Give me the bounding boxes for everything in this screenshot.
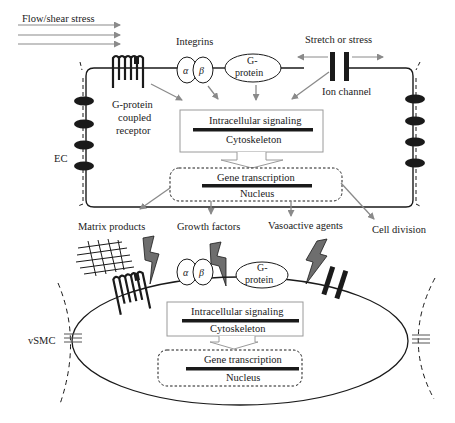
vasoactive-agents-label: Vasoactive agents: [268, 220, 343, 231]
cell-division-label: Cell division: [372, 224, 427, 235]
vsmc-cytoskeleton-label: Cytoskeleton: [210, 323, 266, 334]
vsmc-g-protein-label-1: G-: [257, 262, 268, 273]
g-protein-label-1: G-: [247, 55, 258, 66]
vsmc-signaling-label: Intracellular signaling: [191, 306, 284, 317]
ec-nucleus-box: Gene transcription Nucleus: [170, 168, 342, 201]
vsmc-nucleus-label: Nucleus: [226, 372, 260, 383]
mechanotransduction-diagram: Flow/shear stress EC G-protein coupled r…: [0, 0, 455, 423]
gpcr-receptor-icon: [113, 56, 143, 88]
bar: [193, 128, 313, 132]
vsmc-nucleus-box: Gene transcription Nucleus: [158, 350, 302, 386]
gpcr-label-3: receptor: [116, 125, 151, 136]
bar: [186, 367, 299, 371]
signal-bolt-icon: [210, 242, 226, 286]
arrow: [140, 188, 170, 209]
gpcr-label-1: G-protein: [112, 99, 154, 110]
arrow: [151, 84, 182, 100]
bar: [202, 184, 312, 188]
bar: [182, 319, 299, 323]
junction-protein-icon: [405, 138, 425, 147]
cytoskeleton-label: Cytoskeleton: [226, 134, 282, 145]
gene-transcription-label: Gene transcription: [217, 172, 296, 183]
matrix-products-label: Matrix products: [78, 221, 145, 232]
beta-symbol: β: [198, 65, 204, 76]
vsmc-beta-symbol: β: [198, 267, 204, 278]
junction-protein-icon: [74, 97, 94, 106]
ion-channel-icon: [330, 52, 335, 81]
junction-protein-icon: [74, 141, 94, 150]
alpha-symbol: α: [183, 65, 189, 76]
vsmc-gene-transcription-label: Gene transcription: [204, 354, 283, 365]
signal-bolt-icon: [143, 236, 159, 284]
signaling-label: Intracellular signaling: [209, 115, 302, 126]
flow-label: Flow/shear stress: [22, 13, 95, 24]
integrins-label: Integrins: [176, 36, 213, 47]
ion-channel-label: Ion channel: [322, 86, 371, 97]
junction-protein-icon: [405, 95, 425, 104]
junction-protein-icon: [74, 162, 94, 171]
vsmc-gpcr-receptor-icon: [113, 271, 150, 314]
ion-channel-icon: [344, 52, 349, 81]
vsmc-ion-channel-icon: [334, 270, 348, 299]
vsmc-label: vSMC: [28, 335, 55, 346]
gpcr-label-2: coupled: [118, 112, 152, 123]
junction-protein-icon: [405, 159, 425, 168]
arrow: [208, 86, 218, 99]
junction-protein-icon: [405, 117, 425, 126]
junction-protein-icon: [74, 120, 94, 129]
vsmc-alpha-symbol: α: [183, 267, 189, 278]
ec-label: EC: [54, 153, 67, 164]
growth-factors-label: Growth factors: [177, 221, 240, 232]
flow-shear-stress: Flow/shear stress: [18, 13, 120, 44]
signal-bolt-icon: [306, 239, 327, 284]
vsmc-signaling-box: Intracellular signaling Cytoskeleton: [167, 302, 303, 349]
ec-signaling-box: Intracellular signaling Cytoskeleton: [180, 110, 323, 168]
stretch-label: Stretch or stress: [305, 34, 372, 45]
arrow: [341, 183, 374, 219]
nucleus-label: Nucleus: [240, 188, 274, 199]
matrix-mesh-icon: [76, 239, 134, 276]
vsmc-g-protein-label-2: protein: [245, 274, 273, 285]
g-protein-label-2: protein: [235, 67, 263, 78]
vsmc-ion-channel-icon: [321, 266, 335, 295]
